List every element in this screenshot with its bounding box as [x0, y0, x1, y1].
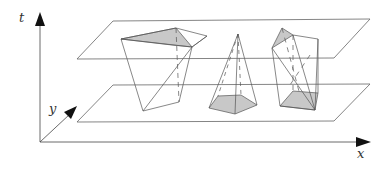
- pyramid-base: [209, 95, 257, 114]
- frustum-top-face: [121, 28, 192, 47]
- x-axis-label: x: [357, 147, 364, 160]
- diagram-canvas: t y x: [0, 0, 389, 171]
- pyramid-shape: [209, 34, 257, 114]
- frustum-shape: [121, 28, 207, 111]
- diagram-svg: [0, 0, 389, 171]
- t-arrowhead-icon: [35, 12, 45, 26]
- y-arrowhead-icon: [64, 106, 77, 119]
- y-axis: [40, 114, 70, 142]
- twisted-prism-shape: [272, 28, 318, 110]
- t-axis-label: t: [19, 11, 24, 24]
- axes: [40, 22, 358, 142]
- y-axis-label: y: [49, 102, 56, 115]
